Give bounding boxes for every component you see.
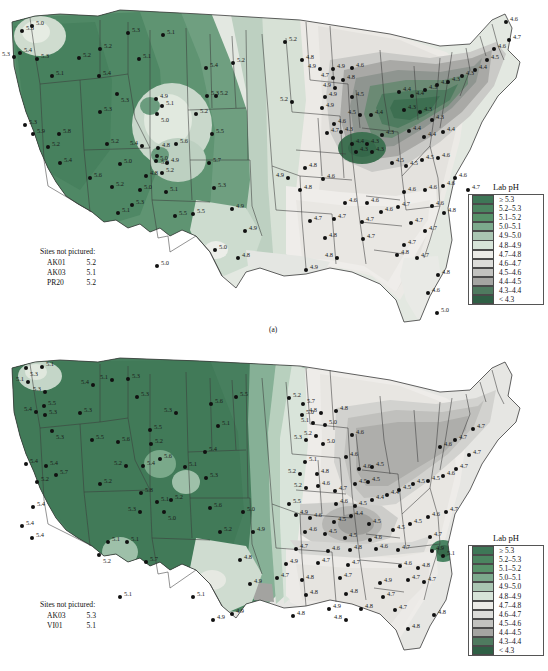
- site-ph-label: 5.4: [24, 405, 32, 412]
- site-ph-label: 5.3: [29, 118, 37, 125]
- site-ph-label: 5.1: [161, 495, 169, 502]
- site-dot-icon: [426, 291, 430, 295]
- site-dot-icon: [444, 510, 448, 514]
- legend-swatch: [472, 204, 494, 213]
- site-dot-icon: [325, 131, 329, 135]
- site-dot-icon: [316, 561, 320, 565]
- site-ph-label: 5.0: [144, 183, 152, 190]
- site-ph-label: 5.4: [50, 459, 58, 466]
- site-ph-label: 5.1: [56, 69, 64, 76]
- site-dot-icon: [460, 74, 464, 78]
- site-dot-icon: [423, 88, 427, 92]
- site-ph-label: 4.3: [424, 105, 432, 112]
- site-ph-label: 4.5: [373, 517, 381, 524]
- site-ph-label: 4.6: [385, 205, 393, 212]
- site-dot-icon: [110, 378, 114, 382]
- site-ph-label: 5.2: [103, 557, 111, 564]
- site-ph-label: 4.7: [459, 433, 467, 440]
- site-ph-label: 5.3: [104, 105, 112, 112]
- site-ph-label: 5.0: [161, 116, 169, 123]
- site-ph-label: 4.5: [348, 108, 356, 115]
- legend-label: 4.4–4.5: [499, 277, 521, 286]
- site-dot-icon: [124, 464, 128, 468]
- site-ph-label: 4.7: [281, 571, 289, 578]
- site-dot-icon: [43, 390, 47, 394]
- site-dot-icon: [344, 455, 348, 459]
- site-ph-label: 4.6: [332, 544, 340, 551]
- site-ph-label: 4.7: [314, 214, 322, 221]
- site-ph-label: 4.6: [498, 42, 506, 49]
- site-ph-label: 4.6: [432, 510, 440, 517]
- not-pictured-site: AK01: [47, 258, 66, 268]
- site-ph-label: 5.3: [141, 390, 149, 397]
- site-ph-label: 5.0: [168, 514, 176, 521]
- site-ph-label: 5.3: [56, 433, 64, 440]
- legend-swatch: [472, 591, 494, 600]
- site-dot-icon: [467, 453, 471, 457]
- site-dot-icon: [275, 576, 279, 580]
- site-ph-label: 5.1: [124, 590, 132, 597]
- site-ph-label: 4.7: [344, 571, 352, 578]
- site-dot-icon: [77, 56, 81, 60]
- site-dot-icon: [339, 130, 343, 134]
- site-dot-icon: [110, 185, 114, 189]
- legend-swatch: [472, 213, 494, 222]
- site-dot-icon: [454, 467, 458, 471]
- site-ph-label: 5.3: [33, 385, 41, 392]
- site-dot-icon: [31, 505, 35, 509]
- site-ph-label: 4.4: [356, 137, 364, 144]
- site-ph-label: 5.6: [164, 452, 172, 459]
- site-dot-icon: [323, 532, 327, 536]
- site-ph-label: 4.9: [436, 544, 444, 551]
- site-dot-icon: [319, 411, 323, 415]
- site-dot-icon: [353, 482, 357, 486]
- site-dot-icon: [290, 100, 294, 104]
- site-ph-label: 5.3: [136, 198, 144, 205]
- site-dot-icon: [393, 608, 397, 612]
- site-dot-icon: [380, 133, 384, 137]
- site-dot-icon: [194, 112, 198, 116]
- site-dot-icon: [160, 104, 164, 108]
- not-pictured-site: AK03: [47, 611, 66, 621]
- site-dot-icon: [50, 429, 54, 433]
- site-ph-label: 4.6: [432, 286, 440, 293]
- site-ph-label: 4.6: [436, 199, 444, 206]
- legend-label: 5.0–5.1: [499, 573, 521, 582]
- site-ph-label: 5.3: [164, 406, 172, 413]
- site-dot-icon: [485, 58, 489, 62]
- site-dot-icon: [436, 273, 440, 277]
- site-ph-label: 5.2: [294, 481, 302, 488]
- site-dot-icon: [23, 123, 27, 127]
- site-ph-label: 4.5: [426, 153, 434, 160]
- site-ph-label: 4.6: [340, 497, 348, 504]
- legend-label: 4.6–4.7: [499, 610, 521, 619]
- site-dot-icon: [332, 520, 336, 524]
- site-ph-label: 5.0: [219, 243, 227, 250]
- site-dot-icon: [154, 97, 158, 101]
- site-dot-icon: [284, 562, 288, 566]
- site-dot-icon: [314, 434, 318, 438]
- site-dot-icon: [118, 595, 122, 599]
- site-ph-label: 4.8: [304, 183, 312, 190]
- legend-row: 5.0–5.1: [469, 573, 543, 582]
- legend-label: 5.1–5.2: [499, 564, 521, 573]
- site-dot-icon: [441, 184, 445, 188]
- site-dot-icon: [441, 130, 445, 134]
- site-ph-label: 4.5: [417, 477, 425, 484]
- site-ph-label: 4.5: [397, 523, 405, 530]
- site-dot-icon: [331, 76, 335, 80]
- site-ph-label: 4.8: [442, 268, 450, 275]
- site-ph-label: 5.1: [189, 460, 197, 467]
- site-ph-label: 5.4: [210, 61, 218, 68]
- site-dot-icon: [446, 80, 450, 84]
- site-dot-icon: [350, 66, 354, 70]
- site-dot-icon: [204, 66, 208, 70]
- site-ph-label: 5.4: [81, 378, 89, 385]
- legend-label: 4.7–4.8: [499, 250, 521, 259]
- site-dot-icon: [411, 482, 415, 486]
- site-dot-icon: [334, 502, 338, 506]
- site-ph-label: 4.7: [352, 558, 360, 565]
- site-ph-label: 4.7: [460, 462, 468, 469]
- site-ph-label: 5.3: [132, 26, 140, 33]
- legend-label: 5.0–5.1: [499, 222, 521, 231]
